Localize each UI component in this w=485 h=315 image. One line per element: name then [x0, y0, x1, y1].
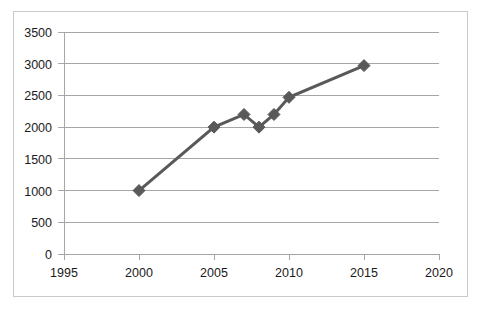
y-tick-label-0: 0: [45, 248, 52, 262]
series-line: [139, 66, 364, 191]
y-tick-label-3500: 3500: [24, 26, 52, 40]
data-point-marker: [358, 60, 370, 72]
x-tick-label-2010: 2010: [275, 266, 303, 280]
x-tick-labels: 1995 2000 2005 2010 2015 2020: [50, 266, 453, 280]
y-tick-labels: 3500 3000 2500 2000 1500 1000 500 0: [24, 26, 52, 262]
x-tick-label-2000: 2000: [125, 266, 153, 280]
x-axis: [64, 254, 439, 260]
y-tick-label-1000: 1000: [24, 185, 52, 199]
y-tick-label-2500: 2500: [24, 89, 52, 103]
y-tick-label-3000: 3000: [24, 58, 52, 72]
x-tick-label-1995: 1995: [50, 266, 78, 280]
y-tick-label-1500: 1500: [24, 153, 52, 167]
chart-frame: 3500 3000 2500 2000 1500 1000 500 0 1995…: [13, 11, 468, 297]
y-tick-label-2000: 2000: [24, 121, 52, 135]
x-tick-label-2015: 2015: [350, 266, 378, 280]
series-markers: [133, 60, 370, 197]
y-axis: [58, 32, 64, 254]
x-tick-label-2020: 2020: [425, 266, 453, 280]
y-tick-label-500: 500: [31, 216, 52, 230]
gridlines: [64, 32, 439, 222]
x-tick-label-2005: 2005: [200, 266, 228, 280]
line-chart-plot: 3500 3000 2500 2000 1500 1000 500 0 1995…: [14, 12, 467, 296]
